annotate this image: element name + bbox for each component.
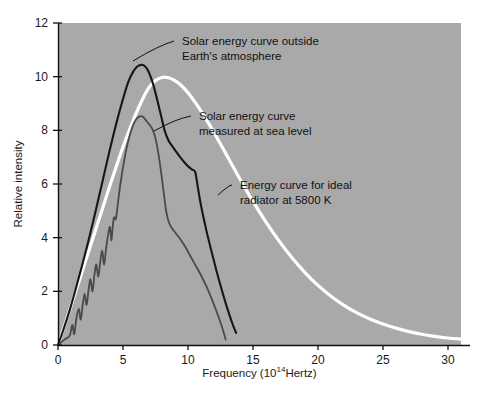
- annotation-line-1: Energy curve for ideal: [240, 179, 352, 191]
- x-tick-label: 5: [120, 353, 127, 367]
- x-tick-label: 25: [376, 353, 390, 367]
- annotation-line-1: Solar energy curve: [199, 110, 296, 122]
- x-axis-title-tail: Hertz): [285, 367, 316, 379]
- annotation-line-2: measured at sea level: [199, 125, 312, 137]
- y-tick-label: 6: [41, 177, 48, 191]
- x-axis-title: Frequency (10 14 Hertz): [202, 365, 317, 379]
- solar-spectrum-chart: Energy curve for ideal radiator at 5800 …: [0, 0, 488, 394]
- y-tick-label: 12: [35, 16, 49, 30]
- y-tick-label: 4: [41, 231, 48, 245]
- x-axis-title-base: Frequency (10: [202, 367, 276, 379]
- x-tick-label: 10: [181, 353, 195, 367]
- annotation-line-1: Solar energy curve outside: [182, 35, 319, 47]
- y-axis-title: Relative intensity: [12, 140, 24, 227]
- annotation-line-2: radiator at 5800 K: [240, 194, 332, 206]
- x-tick-label: 30: [441, 353, 455, 367]
- y-tick-label: 2: [41, 284, 48, 298]
- y-tick-label: 10: [35, 70, 49, 84]
- y-tick-label: 8: [41, 123, 48, 137]
- annotation-line-2: Earth's atmosphere: [182, 50, 281, 62]
- x-tick-label: 15: [246, 353, 260, 367]
- x-tick-label: 20: [311, 353, 325, 367]
- x-tick-label: 0: [55, 353, 62, 367]
- y-tick-label: 0: [41, 338, 48, 352]
- chart-figure: Energy curve for ideal radiator at 5800 …: [0, 0, 488, 394]
